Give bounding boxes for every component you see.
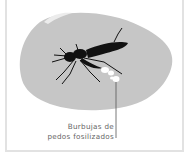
- bubbles-caption: Burbujas de pedos fosilizados: [47, 122, 114, 142]
- amber-stone: [20, 13, 173, 111]
- caption-line-1: Burbujas de: [47, 122, 114, 132]
- caption-line-2: pedos fosilizados: [47, 132, 114, 142]
